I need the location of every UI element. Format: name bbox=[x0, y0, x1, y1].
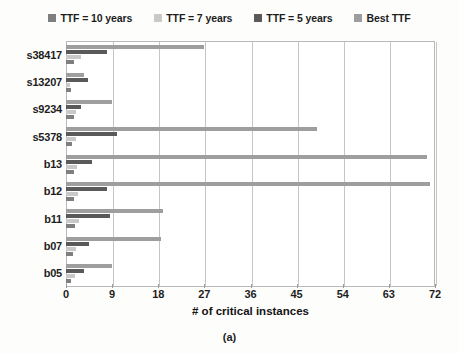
x-tick-label: 27 bbox=[198, 288, 210, 300]
gridline bbox=[205, 42, 206, 286]
x-tick-label: 18 bbox=[152, 288, 164, 300]
y-axis-label: s9234 bbox=[0, 103, 62, 115]
y-axis-labels: s38417s13207s9234s5378b13b12b11b07b05 bbox=[0, 41, 62, 287]
x-tick-label: 0 bbox=[63, 288, 69, 300]
gridline bbox=[159, 42, 160, 286]
x-tick-label: 72 bbox=[429, 288, 441, 300]
legend-swatch-icon bbox=[48, 14, 56, 22]
plot-area bbox=[66, 41, 435, 287]
x-tick-label: 63 bbox=[383, 288, 395, 300]
x-tick-label: 45 bbox=[291, 288, 303, 300]
gridline bbox=[344, 42, 345, 286]
figure-caption: (a) bbox=[0, 331, 459, 343]
legend-label: TTF = 10 years bbox=[60, 12, 132, 24]
legend-entry[interactable]: Best TTF bbox=[354, 12, 410, 24]
y-axis-label: b13 bbox=[0, 158, 62, 170]
y-axis-label: b11 bbox=[0, 213, 62, 225]
y-axis-label: b07 bbox=[0, 240, 62, 252]
legend-swatch-icon bbox=[354, 14, 362, 22]
x-axis-title: # of critical instances bbox=[66, 305, 435, 317]
y-axis-label: s5378 bbox=[0, 131, 62, 143]
legend-label: TTF = 5 years bbox=[266, 12, 332, 24]
legend-swatch-icon bbox=[154, 14, 162, 22]
legend-entry[interactable]: TTF = 7 years bbox=[154, 12, 232, 24]
figure-container: TTF = 10 yearsTTF = 7 yearsTTF = 5 years… bbox=[0, 0, 459, 354]
legend-swatch-icon bbox=[254, 14, 262, 22]
x-tick-label: 54 bbox=[337, 288, 349, 300]
gridline bbox=[298, 42, 299, 286]
y-axis-label: b12 bbox=[0, 185, 62, 197]
gridline bbox=[252, 42, 253, 286]
gridline bbox=[436, 42, 437, 286]
legend-entry[interactable]: TTF = 10 years bbox=[48, 12, 132, 24]
x-tick-label: 9 bbox=[109, 288, 115, 300]
x-tick-label: 36 bbox=[244, 288, 256, 300]
y-axis-label: s38417 bbox=[0, 49, 62, 61]
legend-entry[interactable]: TTF = 5 years bbox=[254, 12, 332, 24]
gridline bbox=[390, 42, 391, 286]
x-axis-ticks: 0918273645546372 bbox=[0, 288, 459, 304]
chart-legend: TTF = 10 yearsTTF = 7 yearsTTF = 5 years… bbox=[0, 8, 459, 28]
gridline bbox=[113, 42, 114, 286]
legend-label: TTF = 7 years bbox=[166, 12, 232, 24]
y-axis-label: b05 bbox=[0, 267, 62, 279]
y-axis-label: s13207 bbox=[0, 76, 62, 88]
legend-label: Best TTF bbox=[366, 12, 410, 24]
